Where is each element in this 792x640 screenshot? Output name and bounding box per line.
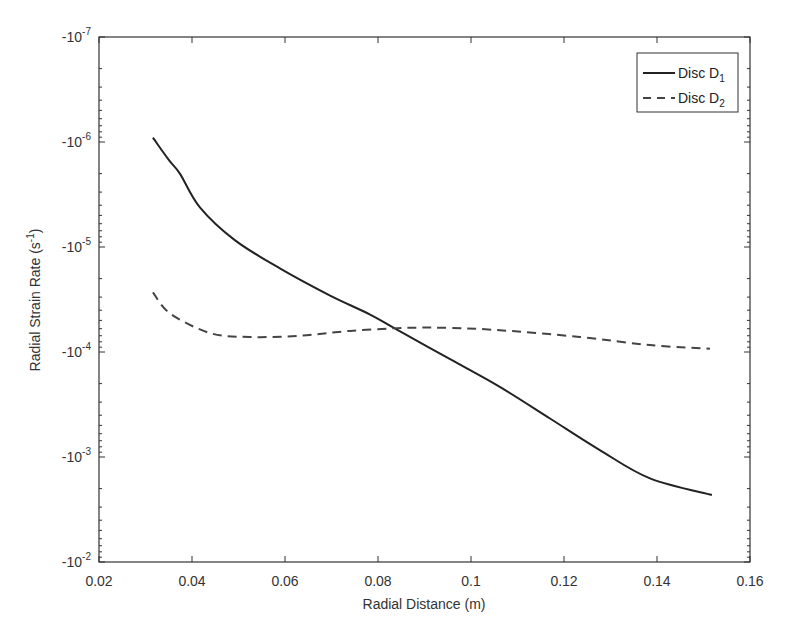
x-tick-label: 0.08 xyxy=(364,573,391,589)
legend: Disc D1 Disc D2 xyxy=(637,53,738,112)
x-tick-label: 0.14 xyxy=(643,573,670,589)
y-tick-label: -10-6 xyxy=(62,131,92,150)
x-tick-label: 0.04 xyxy=(178,573,205,589)
plot-area xyxy=(99,37,750,562)
line-chart: 0.020.040.060.080.10.120.140.16 -10-7-10… xyxy=(0,0,792,640)
y-tick-label: -10-4 xyxy=(62,341,92,360)
y-tick-labels: -10-7-10-6-10-5-10-4-10-3-10-2 xyxy=(62,26,92,570)
y-tick-label: -10-3 xyxy=(62,446,92,465)
y-tick-label: -10-5 xyxy=(62,236,92,255)
x-tick-label: 0.12 xyxy=(550,573,577,589)
x-tick-label: 0.1 xyxy=(461,573,481,589)
y-tick-label: -10-2 xyxy=(62,551,92,570)
x-tick-label: 0.06 xyxy=(271,573,298,589)
y-axis-label: Radial Strain Rate (s-1) xyxy=(25,229,43,372)
x-tick-labels: 0.020.040.060.080.10.120.140.16 xyxy=(85,573,763,589)
x-tick-label: 0.16 xyxy=(736,573,763,589)
x-axis-label: Radial Distance (m) xyxy=(363,596,486,612)
x-tick-label: 0.02 xyxy=(85,573,112,589)
y-tick-label: -10-7 xyxy=(62,26,92,45)
